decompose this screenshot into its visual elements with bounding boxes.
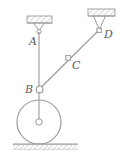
diagram-canvas: A B C D [0, 0, 127, 160]
label-a: A [28, 35, 37, 48]
support-d-hatch-plate [88, 9, 115, 16]
label-d: D [103, 28, 113, 41]
label-c: C [72, 59, 81, 72]
label-b: B [24, 83, 33, 96]
ground-hatch [13, 144, 78, 149]
support-a [27, 16, 52, 34]
wheel-hub [36, 119, 42, 125]
joint-c-pin-square [66, 56, 71, 61]
mechanics-figure: A B C D [0, 0, 127, 160]
joint-b-pin-circle [36, 86, 43, 93]
support-a-hatch-plate [27, 16, 52, 23]
ground-support [13, 144, 78, 149]
